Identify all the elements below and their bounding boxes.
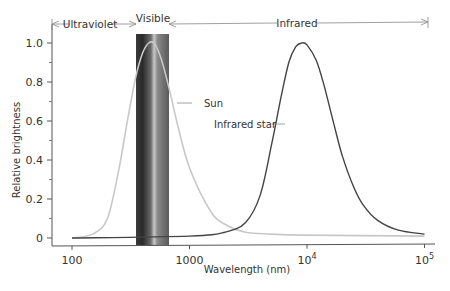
y-tick-label: 0.2: [26, 193, 44, 206]
x-axis-title: Wavelength (nm): [204, 264, 290, 275]
sun-curve: [72, 42, 425, 238]
x-tick-label: 100: [62, 254, 83, 267]
sun-label: Sun: [204, 98, 223, 109]
visible-band: [136, 34, 169, 245]
region-label-infrared: Infrared: [276, 17, 317, 29]
region-label-visible: Visible: [136, 12, 170, 24]
y-axis-title: Relative brightness: [11, 102, 22, 198]
y-tick-label: 1.0: [26, 37, 44, 50]
spectrum-chart: 00.20.40.60.81.0 1001000104105 Relative …: [0, 0, 450, 291]
y-tick-label: 0.6: [26, 115, 44, 128]
y-tick-label: 0: [36, 232, 43, 245]
x-tick-label: 1000: [176, 254, 204, 267]
infrared-star-label: Infrared star: [214, 119, 277, 130]
y-tick-label: 0.4: [26, 154, 44, 167]
y-tick-label: 0.8: [26, 76, 44, 89]
y-axis: 00.20.40.60.81.0: [26, 24, 53, 246]
region-label-ultraviolet: Ultraviolet: [63, 18, 118, 30]
x-tick-label: 104: [297, 252, 316, 267]
x-tick-label: 105: [415, 252, 434, 267]
